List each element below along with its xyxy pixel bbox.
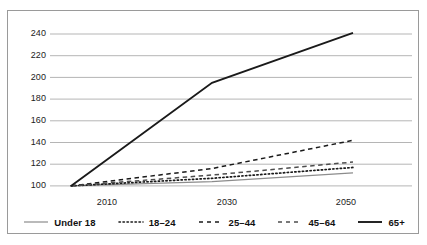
chart-container: 240 220 200 180 160 140 120 100 2010 203… xyxy=(7,10,419,234)
plot-area xyxy=(8,11,420,209)
legend-label-under-18: Under 18 xyxy=(54,217,95,228)
legend-label-18-24: 18–24 xyxy=(149,217,176,228)
legend-item-under-18: Under 18 xyxy=(23,217,95,228)
legend-item-18-24: 18–24 xyxy=(118,217,176,228)
legend-swatch-under-18 xyxy=(23,217,49,227)
legend-swatch-25-44 xyxy=(198,217,224,227)
series-line-45-64 xyxy=(71,162,353,186)
legend-label-25-44: 25–44 xyxy=(229,217,256,228)
legend-swatch-65-plus xyxy=(357,217,383,227)
legend-swatch-45-64 xyxy=(277,217,303,227)
legend-item-65-plus: 65+ xyxy=(357,217,404,228)
legend-item-25-44: 25–44 xyxy=(198,217,256,228)
chart-legend: Under 18 18–24 25–44 45–64 65+ xyxy=(8,209,420,235)
legend-label-45-64: 45–64 xyxy=(308,217,335,228)
legend-swatch-18-24 xyxy=(118,217,144,227)
gridlines xyxy=(50,34,412,186)
legend-label-65-plus: 65+ xyxy=(388,217,404,228)
legend-item-45-64: 45–64 xyxy=(277,217,335,228)
